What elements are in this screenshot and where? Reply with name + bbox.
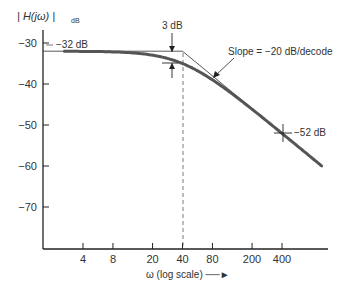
flat-level-label: −32 dB — [56, 39, 88, 50]
x-tick-label: 80 — [206, 253, 218, 265]
slope-arrow-line — [216, 58, 234, 75]
y-tick-label: −60 — [18, 160, 37, 172]
gap-3db-label: 3 dB — [162, 20, 183, 31]
x-ticks: 48204080200400 — [80, 243, 291, 265]
magnitude-curve — [64, 51, 321, 166]
x-tick-label: 8 — [110, 253, 116, 265]
y-axis-title-sub: dB — [71, 17, 80, 24]
y-tick-label: −70 — [18, 201, 37, 213]
slope-label: Slope = −20 dB/decode — [228, 46, 333, 57]
x-tick-label: 4 — [80, 253, 86, 265]
y-tick-label: −30 — [18, 37, 37, 49]
point-label: −52 dB — [294, 127, 326, 138]
y-tick-label: −50 — [18, 119, 37, 131]
x-tick-label: 20 — [146, 253, 158, 265]
x-tick-label: 200 — [243, 253, 261, 265]
y-tick-label: −40 — [18, 78, 37, 90]
x-tick-label: 400 — [273, 253, 291, 265]
arrow-up-icon — [169, 63, 175, 69]
y-axis-title: | H(jω) | — [17, 10, 55, 22]
x-axis-title: ω (log scale) ──► — [146, 269, 230, 280]
x-tick-label: 40 — [176, 253, 188, 265]
y-ticks: −30−40−50−60−70 — [18, 37, 49, 213]
bode-magnitude-chart: | H(jω) | dB −30−40−50−60−70 48204080200… — [0, 0, 342, 289]
